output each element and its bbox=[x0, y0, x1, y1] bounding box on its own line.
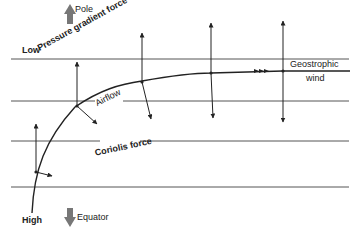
coriolis-arrow-4 bbox=[211, 73, 213, 118]
equator-label: Equator bbox=[77, 213, 109, 222]
wind-label: wind bbox=[306, 74, 325, 83]
equator-arrow-icon bbox=[64, 208, 76, 227]
coriolis-arrow-1 bbox=[36, 172, 52, 176]
coriolis-arrow-2 bbox=[77, 106, 97, 124]
airflow-path bbox=[32, 71, 350, 213]
high-label: High bbox=[22, 216, 42, 225]
geostrophic-label: Geostrophic bbox=[290, 60, 339, 69]
